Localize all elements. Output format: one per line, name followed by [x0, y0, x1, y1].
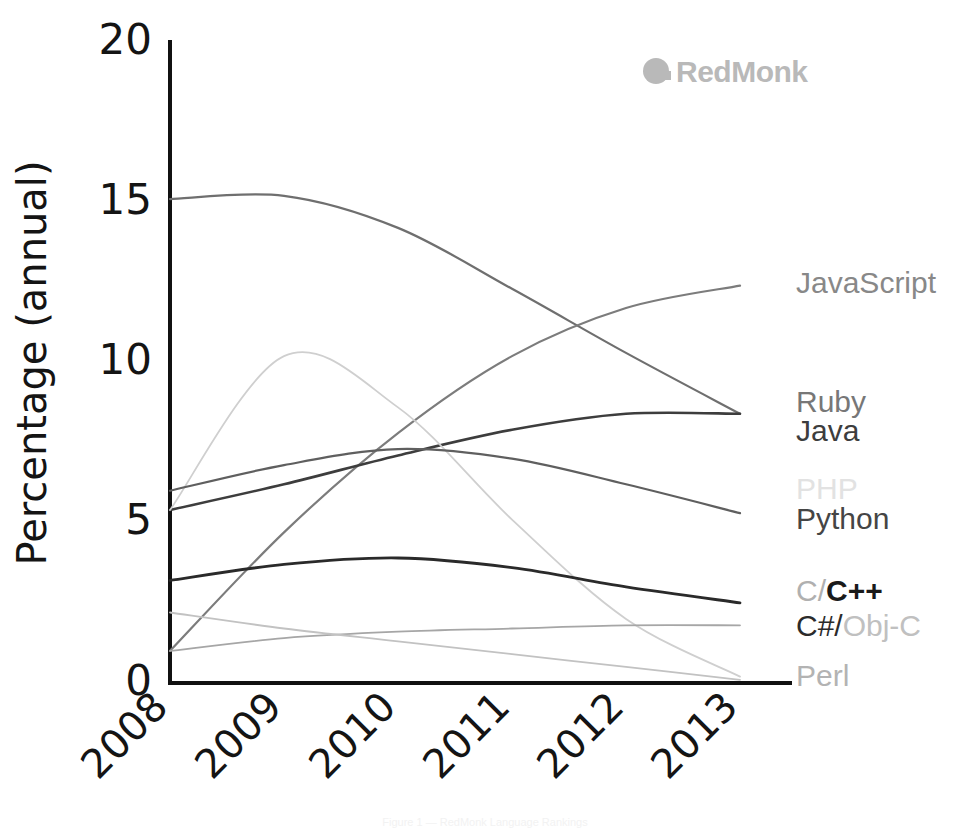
y-tick-label: 5: [125, 495, 152, 544]
legend-label-ccpp: C/C++: [796, 574, 883, 607]
series-line-perl: [170, 612, 740, 679]
x-tick-label: 2010: [300, 683, 405, 788]
legend-label-perl: Perl: [796, 659, 849, 692]
legend-label-python: Python: [796, 502, 889, 535]
series-line-php: [170, 352, 740, 677]
y-tick-label: 20: [99, 15, 152, 64]
y-axis-title-text: Percentage (annual): [9, 160, 55, 565]
x-tick-label: 2012: [528, 683, 633, 788]
series-legend: JavaScriptRubyJavaPHPPythonC/C++C#/Obj-C…: [796, 266, 937, 692]
figure-caption: Figure 1 — RedMonk Language Rankings: [382, 816, 588, 828]
language-rankings-chart: RedMonk Percentage (annual) 05101520 200…: [0, 0, 971, 839]
series-line-python: [170, 449, 740, 513]
chart-svg: RedMonk Percentage (annual) 05101520 200…: [0, 0, 971, 839]
x-tick-label: 2013: [642, 683, 747, 788]
watermark: RedMonk: [643, 55, 808, 88]
x-tick-label: 2009: [186, 683, 291, 788]
y-tick-label: 10: [99, 335, 152, 384]
legend-label-javascript: JavaScript: [796, 266, 937, 299]
y-tick-label: 15: [99, 175, 152, 224]
legend-label-java: Java: [796, 414, 860, 447]
y-tick-labels: 05101520: [99, 15, 152, 705]
axis-lines: [170, 42, 790, 683]
series-line-c-c: [170, 558, 740, 603]
series-lines: [170, 194, 740, 680]
x-tick-label: 2008: [72, 683, 177, 788]
legend-label-php: PHP: [796, 472, 858, 505]
y-axis-title: Percentage (annual): [9, 160, 55, 565]
watermark-label: RedMonk: [676, 55, 808, 88]
series-line-javascript: [170, 286, 740, 651]
legend-label-csharp: C#/Obj-C: [796, 609, 921, 642]
x-tick-labels: 200820092010201120122013: [72, 683, 747, 788]
x-tick-label: 2011: [414, 683, 519, 788]
